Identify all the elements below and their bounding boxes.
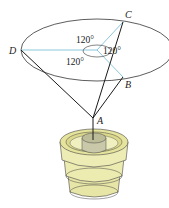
angle-label-right: 120°	[103, 46, 121, 56]
base-fixture	[60, 129, 128, 199]
point-label-c: C	[125, 9, 132, 20]
angle-label-top: 120°	[76, 35, 94, 45]
cables	[21, 22, 123, 118]
angle-label-bottom: 120°	[66, 57, 84, 67]
point-label-b: B	[125, 79, 131, 90]
point-label-d: D	[8, 45, 17, 56]
point-label-a: A	[96, 115, 104, 126]
force-diagram: D C B A 120° 120° 120°	[0, 0, 169, 208]
